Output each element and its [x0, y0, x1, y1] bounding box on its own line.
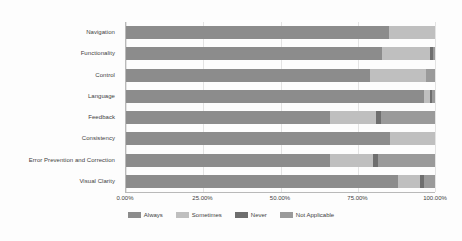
plot-wrapper: NavigationFunctionalityControlLanguageFe…	[0, 0, 462, 241]
bar-segment[interactable]	[126, 90, 424, 103]
bar-row[interactable]	[126, 154, 435, 167]
bar-segment[interactable]	[126, 69, 370, 82]
category-label: Navigation	[0, 29, 120, 36]
bar-segment[interactable]	[433, 47, 435, 60]
legend-swatch-icon	[235, 212, 248, 218]
bar-segment[interactable]	[432, 90, 435, 103]
category-label: Error Prevention and Correction	[0, 157, 120, 164]
bar-segment[interactable]	[398, 175, 420, 188]
bar-row[interactable]	[126, 26, 435, 39]
bar-segment[interactable]	[389, 26, 435, 39]
bar-segment[interactable]	[382, 47, 430, 60]
bar-segment[interactable]	[126, 132, 390, 145]
bar-row[interactable]	[126, 111, 435, 124]
bar-segment[interactable]	[126, 175, 398, 188]
bar-segment[interactable]	[424, 175, 435, 188]
legend-swatch-icon	[176, 212, 189, 218]
x-tick-label: 75.00%	[347, 194, 367, 203]
plot-area	[125, 22, 435, 192]
category-label: Consistency	[0, 135, 120, 142]
x-tick-label: 100.00%	[423, 194, 447, 203]
bar-row[interactable]	[126, 47, 435, 60]
legend-swatch-icon	[128, 212, 141, 218]
bar-segment[interactable]	[126, 154, 330, 167]
bar-segment[interactable]	[370, 69, 426, 82]
bar-segment[interactable]	[330, 111, 376, 124]
category-label: Control	[0, 72, 120, 79]
category-label: Visual Clarity	[0, 178, 120, 185]
bar-segment[interactable]	[126, 47, 382, 60]
legend-label: Not Applicable	[296, 211, 334, 219]
bar-series-container	[126, 22, 435, 192]
x-tick-label: 0.00%	[116, 194, 133, 203]
legend-item[interactable]: Not Applicable	[280, 211, 334, 219]
category-label: Feedback	[0, 114, 120, 121]
x-tick-label: 50.00%	[270, 194, 290, 203]
bar-row[interactable]	[126, 132, 435, 145]
bar-row[interactable]	[126, 175, 435, 188]
gridline	[435, 22, 436, 192]
legend-label: Sometimes	[192, 211, 222, 219]
bar-segment[interactable]	[378, 154, 435, 167]
bar-segment[interactable]	[126, 26, 389, 39]
x-tick-label: 25.00%	[192, 194, 212, 203]
category-label: Language	[0, 93, 120, 100]
x-axis-tick-labels: 0.00%25.00%50.00%75.00%100.00%	[125, 194, 435, 206]
bar-row[interactable]	[126, 69, 435, 82]
legend-label: Never	[251, 211, 267, 219]
bar-row[interactable]	[126, 90, 435, 103]
legend-label: Always	[144, 211, 163, 219]
legend-item[interactable]: Sometimes	[176, 211, 222, 219]
legend-swatch-icon	[280, 212, 293, 218]
legend-item[interactable]: Always	[128, 211, 163, 219]
bar-segment[interactable]	[381, 111, 435, 124]
bar-segment[interactable]	[426, 69, 435, 82]
category-label: Functionality	[0, 50, 120, 57]
x-axis-line	[125, 192, 435, 193]
category-axis-labels: NavigationFunctionalityControlLanguageFe…	[0, 22, 120, 192]
stacked-bar-chart: NavigationFunctionalityControlLanguageFe…	[0, 0, 462, 241]
chart-legend: AlwaysSometimesNeverNot Applicable	[0, 211, 462, 219]
bar-segment[interactable]	[330, 154, 373, 167]
legend-item[interactable]: Never	[235, 211, 267, 219]
bar-segment[interactable]	[126, 111, 330, 124]
bar-segment[interactable]	[390, 132, 435, 145]
